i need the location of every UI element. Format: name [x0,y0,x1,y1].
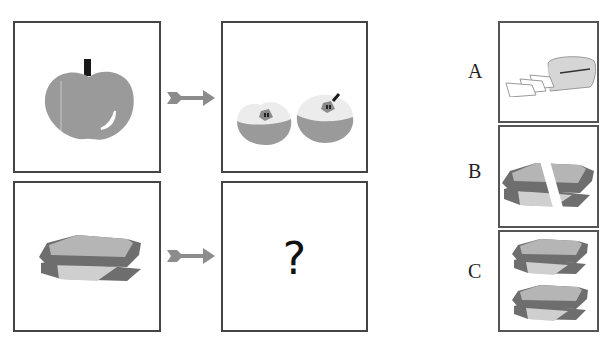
option-a-label: A [468,60,482,83]
arrow-right-icon [167,90,215,106]
option-c-label: C [468,260,481,283]
two-sandwiches-icon [512,238,590,328]
question-mark: ? [223,233,366,284]
panel-sandwich-whole [13,181,161,332]
apple-icon [41,59,137,143]
panel-answer-unknown: ? [221,181,368,332]
apple-halves-icon [233,91,361,147]
sandwich-cut-icon [502,161,596,211]
panel-apple-halves [221,21,368,173]
bread-loaf-icon [502,55,596,97]
sandwich-icon [37,233,147,285]
panel-apple-whole [13,21,161,173]
arrow-right-icon [167,248,215,264]
option-b-label: B [468,160,481,183]
option-b[interactable] [498,125,599,228]
option-c[interactable] [498,230,599,332]
option-a[interactable] [498,21,599,123]
